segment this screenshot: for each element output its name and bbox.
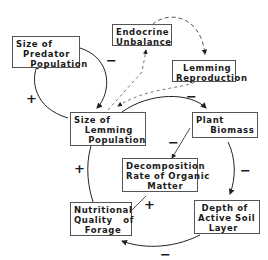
node-active-soil-depth: Depth of Active Soil Layer <box>194 200 260 234</box>
node-lemming-reproduction: Lemming Reproduction <box>172 60 236 82</box>
sign-plant-to-soil: − <box>240 164 251 177</box>
node-decomposition-rate: Decomposition Rate of Organic Matter <box>122 158 198 192</box>
node-predator-population: Size of Predator Population <box>12 36 80 68</box>
sign-decomposition-to-nutrition: + <box>144 198 155 211</box>
sign-predator-to-lemming: − <box>106 54 117 67</box>
sign-lemming-to-predator: + <box>26 92 37 105</box>
sign-nutrition-to-lemming: + <box>74 162 85 175</box>
node-nutritional-quality: Nutritional Quality of Forage <box>70 202 132 236</box>
node-lemming-population: Size of Lemming Population <box>70 112 146 146</box>
node-endocrine-unbalance: Endocrine Unbalance <box>112 24 172 46</box>
sign-lemming-to-plant: − <box>186 90 197 103</box>
node-plant-biomass: Plant Biomass <box>192 112 258 138</box>
sign-soil-to-nutrition: − <box>160 248 171 260</box>
sign-plant-to-decomposition: − <box>168 136 179 149</box>
